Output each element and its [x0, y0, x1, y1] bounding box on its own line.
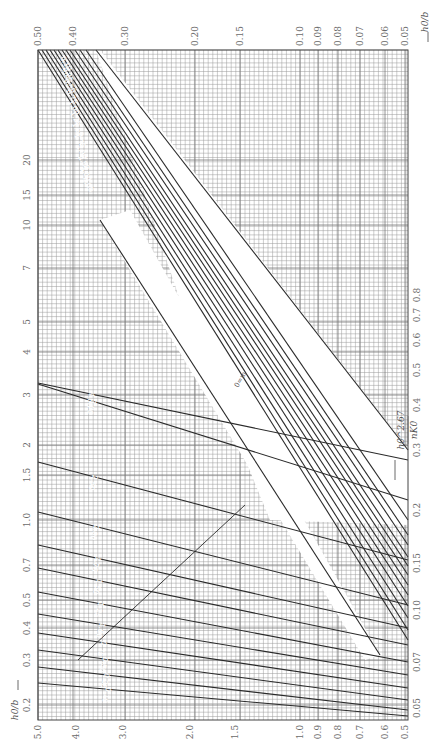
svg-text:0.3: 0.3: [412, 443, 422, 458]
svg-text:0.2: 0.2: [22, 698, 32, 712]
svg-text:0.2: 0.2: [412, 503, 422, 517]
formula-denominator: nK0: [409, 421, 419, 440]
svg-text:0.40: 0.40: [68, 26, 78, 46]
right-axis-ticks: 0.050.070.100.150.20.30.40.50.60.70.8: [412, 288, 422, 718]
bottom-axis-title: h0/b: [10, 700, 20, 721]
svg-text:0.30: 0.30: [120, 26, 130, 46]
svg-text:7: 7: [22, 265, 32, 271]
svg-text:0.8: 0.8: [412, 288, 422, 303]
svg-text:1.25: 1.25: [93, 601, 105, 618]
svg-text:0.4: 0.4: [412, 398, 422, 413]
svg-text:0.15: 0.15: [412, 553, 422, 573]
bottom-axis-ticks: 5.04.03.02.01.51.00.90.80.70.60.5: [33, 725, 410, 740]
svg-text:0.15: 0.15: [235, 26, 245, 46]
svg-text:0.20: 0.20: [190, 26, 200, 46]
svg-text:0.9: 0.9: [313, 725, 323, 740]
svg-text:0.4: 0.4: [22, 621, 32, 636]
svg-text:4.0: 4.0: [71, 725, 81, 740]
top-axis-title: h0/b: [420, 12, 430, 33]
svg-text:0.07: 0.07: [412, 652, 422, 672]
svg-text:0.7: 0.7: [412, 308, 422, 323]
svg-text:0.50: 0.50: [33, 26, 43, 46]
svg-text:0.06: 0.06: [380, 26, 390, 46]
svg-text:1.0: 1.0: [22, 513, 32, 528]
svg-text:0.08: 0.08: [333, 26, 343, 46]
formula-numerator: h0^2.67: [396, 410, 406, 449]
svg-text:0.6: 0.6: [380, 725, 390, 740]
left-axis-ticks: 0.20.30.40.50.71.01.523457101520: [22, 154, 32, 712]
svg-text:4: 4: [22, 349, 32, 355]
svg-text:2.0: 2.0: [185, 725, 195, 740]
svg-text:0.10: 0.10: [412, 600, 422, 620]
svg-text:1.0: 1.0: [295, 725, 305, 740]
svg-text:10: 10: [22, 219, 32, 231]
svg-text:0.3: 0.3: [22, 653, 32, 668]
svg-text:20: 20: [22, 154, 32, 166]
svg-text:0.6: 0.6: [412, 333, 422, 348]
svg-text:4.00: 4.00: [80, 176, 95, 194]
top-axis-title-text: h0/b: [420, 12, 430, 33]
top-axis-ticks: 0.500.400.300.200.150.100.090.080.070.06…: [33, 26, 410, 46]
svg-text:0.8: 0.8: [333, 725, 343, 740]
svg-text:1.5: 1.5: [22, 468, 32, 483]
svg-text:0.50: 0.50: [98, 656, 110, 673]
svg-text:0.5: 0.5: [400, 725, 410, 740]
svg-text:0.09: 0.09: [313, 26, 323, 46]
svg-text:0.7: 0.7: [355, 725, 365, 740]
bottom-axis-title-text: h0/b: [10, 700, 20, 721]
svg-text:0.5: 0.5: [22, 593, 32, 608]
svg-text:15: 15: [22, 189, 32, 201]
svg-text:2: 2: [22, 442, 32, 448]
svg-text:1.5: 1.5: [230, 725, 240, 740]
svg-text:1.00: 1.00: [95, 622, 107, 639]
svg-text:3: 3: [22, 392, 32, 398]
svg-text:5: 5: [22, 319, 32, 325]
svg-text:3.0: 3.0: [118, 725, 128, 740]
svg-text:2.00: 2.00: [89, 524, 101, 541]
svg-text:0.05: 0.05: [400, 26, 410, 46]
svg-text:0.7: 0.7: [22, 558, 32, 573]
svg-text:0.07: 0.07: [355, 26, 365, 46]
svg-text:5.0: 5.0: [33, 725, 43, 740]
svg-text:0.5: 0.5: [412, 363, 422, 378]
svg-text:0.10: 0.10: [295, 26, 305, 46]
nomogram-chart: 4.003.002.502.001.751.501.251.000.750.50…: [0, 0, 439, 740]
svg-text:0.05: 0.05: [412, 698, 422, 718]
